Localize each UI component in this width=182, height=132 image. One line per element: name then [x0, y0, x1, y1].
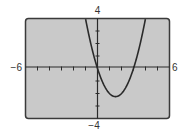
x-min-label: −6	[11, 62, 23, 73]
y-min-label: −4	[88, 120, 100, 131]
y-max-label: 4	[95, 5, 101, 16]
x-max-label: 6	[172, 62, 178, 73]
graph-window: 4 −4 −6 6	[0, 0, 182, 132]
